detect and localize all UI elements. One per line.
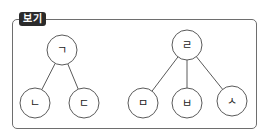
root-node: ㄹ (172, 30, 202, 60)
node-label: ㅅ (227, 95, 237, 108)
edge-0-0 (42, 63, 55, 89)
child-node: ㄷ (69, 88, 99, 118)
child-node: ㄴ (20, 88, 50, 118)
child-node: ㅅ (217, 86, 247, 116)
edge-0-1 (68, 64, 78, 89)
edge-1-2 (196, 57, 222, 90)
root-node: ㄱ (47, 35, 77, 65)
tree-diagram: ㄱㄴㄷㄹㅁㅂㅅ (0, 0, 270, 139)
node-label: ㄹ (182, 39, 192, 52)
node-label: ㄱ (57, 44, 67, 57)
node-label: ㄷ (79, 97, 89, 110)
tree-1: ㄹㅁㅂㅅ (128, 30, 247, 118)
child-node: ㅁ (128, 88, 158, 118)
node-label: ㄴ (30, 97, 40, 110)
node-label: ㅁ (138, 97, 148, 110)
child-node: ㅂ (172, 88, 202, 118)
node-label: ㅂ (182, 97, 192, 110)
edge-1-0 (152, 57, 178, 91)
tree-0: ㄱㄴㄷ (20, 35, 99, 118)
